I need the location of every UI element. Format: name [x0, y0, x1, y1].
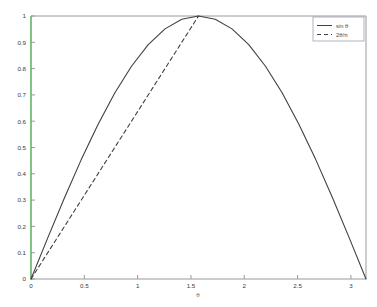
x-tick-label: 0	[29, 282, 33, 289]
y-tick-label: 1	[23, 12, 27, 19]
y-tick-label: 0.4	[17, 170, 26, 177]
x-tick-label: 2	[243, 282, 247, 289]
figure-canvas: 00.10.20.30.40.50.60.70.80.91 00.511.522…	[0, 0, 377, 307]
y-tick-label: 0.5	[17, 144, 26, 151]
y-tick-label: 0.7	[17, 91, 26, 98]
legend-label-linear: 2θ/π	[336, 32, 348, 38]
y-tick-label: 0.6	[17, 118, 26, 125]
legend: sin θ 2θ/π	[313, 17, 364, 41]
x-axis-label: θ	[196, 291, 200, 298]
x-tick-label: 1	[136, 282, 140, 289]
x-tick-label: 0.5	[80, 282, 89, 289]
x-tick-label: 3	[349, 282, 353, 289]
y-tick-label: 0.2	[17, 223, 26, 230]
y-tick-label: 0.3	[17, 196, 26, 203]
sine-vs-linear-chart: 00.10.20.30.40.50.60.70.80.91 00.511.522…	[0, 0, 377, 307]
x-tick-label: 2.5	[293, 282, 302, 289]
y-tick-label: 0.9	[17, 39, 26, 46]
y-tick-label: 0.8	[17, 65, 26, 72]
y-tick-label: 0	[23, 275, 27, 282]
legend-label-sin: sin θ	[336, 23, 348, 29]
y-tick-label: 0.1	[17, 249, 26, 256]
x-tick-label: 1.5	[187, 282, 196, 289]
plot-area-background	[31, 16, 366, 279]
